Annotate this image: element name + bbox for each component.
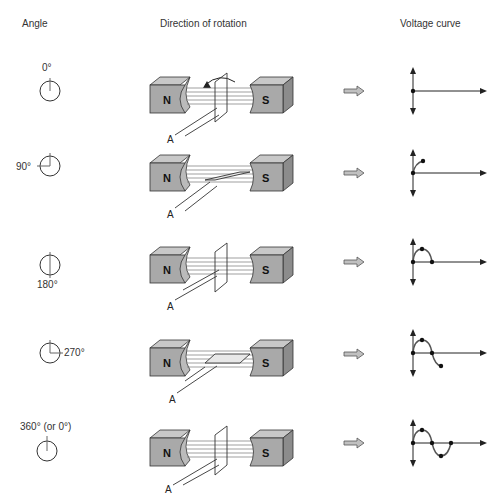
voltage-curve-chart bbox=[405, 149, 495, 199]
svg-text:S: S bbox=[262, 447, 269, 459]
row-0-deg: 0° N A S bbox=[0, 60, 495, 150]
generator-diagram: N A S bbox=[145, 138, 345, 218]
angle-circle-icon bbox=[35, 250, 65, 280]
voltage-curve-chart bbox=[405, 419, 495, 474]
svg-text:S: S bbox=[262, 172, 269, 184]
generator-diagram: N A S bbox=[145, 60, 345, 140]
generator-diagram: N A S bbox=[145, 323, 345, 403]
generator-diagram: N A S bbox=[145, 413, 345, 493]
svg-text:A: A bbox=[169, 394, 176, 405]
right-arrow-icon bbox=[344, 168, 366, 178]
voltage-header: Voltage curve bbox=[400, 18, 461, 29]
svg-text:N: N bbox=[163, 447, 171, 459]
angle-circle-icon bbox=[35, 338, 65, 368]
svg-text:N: N bbox=[163, 264, 171, 276]
angle-circle-icon bbox=[35, 151, 65, 181]
svg-text:N: N bbox=[163, 172, 171, 184]
voltage-curve-chart bbox=[405, 329, 495, 389]
angle-label: 360° (or 0°) bbox=[20, 421, 71, 432]
angle-circle-icon bbox=[32, 434, 62, 464]
svg-text:N: N bbox=[163, 94, 171, 106]
angle-label: 0° bbox=[42, 62, 52, 73]
generator-diagram: N A S bbox=[145, 230, 345, 310]
rotation-arrow-icon bbox=[203, 81, 211, 88]
angle-label: 270° bbox=[64, 347, 85, 358]
svg-text:A: A bbox=[167, 301, 174, 312]
right-arrow-icon bbox=[344, 349, 366, 359]
angle-label: 180° bbox=[37, 279, 58, 290]
row-180-deg: 180° N A S bbox=[0, 243, 495, 333]
row-270-deg: 270° N A S bbox=[0, 335, 495, 425]
right-arrow-icon bbox=[344, 257, 366, 267]
angle-label: 90° bbox=[16, 161, 31, 172]
row-360-deg: 360° (or 0°) N A S bbox=[0, 418, 495, 497]
svg-text:S: S bbox=[262, 357, 269, 369]
row-90-deg: 90° N A S bbox=[0, 148, 495, 238]
voltage-curve-chart bbox=[405, 238, 495, 288]
svg-text:N: N bbox=[163, 357, 171, 369]
right-arrow-icon bbox=[344, 86, 366, 96]
right-arrow-icon bbox=[344, 438, 366, 448]
svg-text:A: A bbox=[167, 209, 174, 220]
angle-circle-icon bbox=[35, 76, 65, 106]
voltage-curve-chart bbox=[405, 67, 495, 117]
direction-header: Direction of rotation bbox=[160, 18, 247, 29]
svg-text:S: S bbox=[262, 94, 269, 106]
svg-text:A: A bbox=[165, 484, 172, 495]
svg-text:S: S bbox=[262, 264, 269, 276]
angle-header: Angle bbox=[22, 18, 48, 29]
